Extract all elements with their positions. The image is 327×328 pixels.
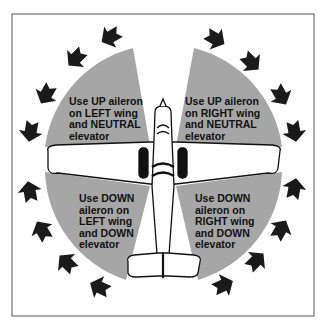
text-line: and NEUTRAL xyxy=(69,119,143,131)
wind-arrow-icon xyxy=(96,21,126,52)
text-line: elevator xyxy=(79,239,134,251)
wind-arrow-icon xyxy=(265,80,296,110)
crosswind-diagram: Use UP aileron on LEFT wing and NEUTRAL … xyxy=(0,0,327,328)
quadrant-text-top-right: Use UP aileron on RIGHT wing and NEUTRAL… xyxy=(185,96,260,142)
wind-arrow-icon xyxy=(209,270,238,301)
quadrant-text-bottom-left: Use DOWN aileron on LEFT wing and DOWN e… xyxy=(79,193,134,251)
text-line: LEFT wing xyxy=(79,216,134,228)
text-line: elevator xyxy=(69,131,143,143)
wind-arrow-icon xyxy=(200,23,230,54)
wind-arrow-icon xyxy=(16,179,43,204)
text-line: Use UP aileron xyxy=(185,96,260,108)
text-line: Use UP aileron xyxy=(69,96,143,108)
text-line: elevator xyxy=(195,239,255,251)
diagram-graphic xyxy=(0,0,327,328)
wind-arrow-icon xyxy=(281,119,308,144)
text-line: elevator xyxy=(185,131,260,143)
quadrant-text-top-left: Use UP aileron on LEFT wing and NEUTRAL … xyxy=(69,96,143,142)
text-line: RIGHT wing xyxy=(195,216,255,228)
wind-arrow-icon xyxy=(51,247,83,279)
text-line: Use DOWN xyxy=(195,193,255,205)
wind-arrow-icon xyxy=(27,216,58,246)
wind-arrow-icon xyxy=(281,176,308,201)
wind-arrow-icon xyxy=(31,79,62,109)
wind-arrow-icon xyxy=(60,42,92,74)
wind-arrow-icon xyxy=(17,119,44,144)
text-line: and NEUTRAL xyxy=(185,119,260,131)
quadrant-text-bottom-right: Use DOWN aileron on RIGHT wing and DOWN … xyxy=(195,193,255,251)
text-line: Use DOWN xyxy=(79,193,134,205)
wind-arrow-icon xyxy=(85,272,114,303)
